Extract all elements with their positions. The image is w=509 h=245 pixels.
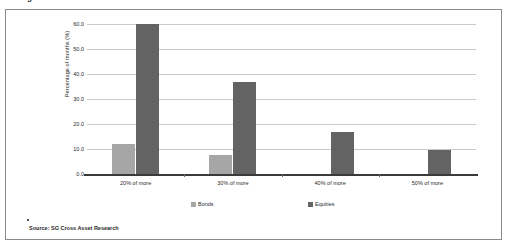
legend-item-bonds: Bonds (191, 201, 214, 207)
bar-equities-2 (331, 132, 354, 175)
bar-equities-0 (136, 24, 159, 174)
x-axis-category-label: 40% of more (315, 180, 346, 186)
caption-text: closing months of the of the of the the … (0, 0, 509, 3)
y-axis-tick-label: 20.0 (58, 121, 84, 127)
x-axis-category-label: 20% of more (120, 180, 151, 186)
x-axis-category-label: 30% of more (217, 180, 248, 186)
chart-plot-area: Percentage of months (%) 0.010.020.030.0… (46, 24, 481, 192)
bar-equities-1 (233, 82, 256, 174)
legend-swatch-icon (308, 202, 313, 207)
source-tick-mark (27, 219, 29, 221)
legend-label: Equities (315, 201, 335, 207)
bar-group (307, 24, 354, 174)
x-axis-tick-mark (184, 174, 185, 177)
x-axis-tick-mark (282, 174, 283, 177)
chart-legend: BondsEquities (46, 201, 481, 213)
legend-label: Bonds (198, 201, 214, 207)
x-axis-tick-mark (379, 174, 380, 177)
figure-frame: Percentage of months (%) 0.010.020.030.0… (5, 9, 502, 240)
y-axis-tick-label: 60.0 (58, 21, 84, 27)
bars-layer (87, 24, 476, 174)
x-axis-category-label: 50% of more (412, 180, 443, 186)
y-axis-tick-labels: 0.010.020.030.040.050.060.0 (58, 24, 84, 174)
bar-group (112, 24, 159, 174)
y-axis-tick-label: 40.0 (58, 71, 84, 77)
y-axis-tick-label: 30.0 (58, 96, 84, 102)
bar-bonds-0 (112, 144, 135, 174)
y-axis-tick-label: 0.0 (58, 171, 84, 177)
bar-group (209, 24, 256, 174)
y-axis-tick-label: 10.0 (58, 146, 84, 152)
y-axis-tick-label: 50.0 (58, 46, 84, 52)
bar-equities-3 (428, 150, 451, 174)
bar-bonds-1 (209, 155, 232, 175)
bar-group (404, 24, 451, 174)
clipped-caption-strip: closing months of the of the of the the … (0, 0, 509, 3)
legend-item-equities: Equities (308, 201, 335, 207)
legend-swatch-icon (191, 202, 196, 207)
x-axis-category-labels: 20% of more30% of more40% of more50% of … (87, 180, 476, 192)
source-note: Source: SG Cross Asset Research (29, 225, 119, 231)
